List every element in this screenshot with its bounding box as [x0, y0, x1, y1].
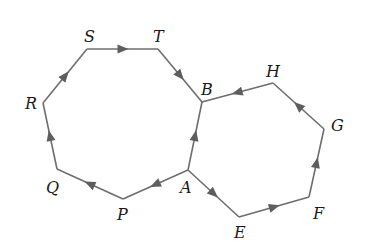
vertex-label-P: P [116, 205, 128, 224]
vertex-label-F: F [312, 204, 325, 223]
arrow-icon-PQ [83, 177, 97, 190]
vertex-label-H: H [265, 62, 281, 81]
arrow-icon-ST [118, 45, 129, 54]
vertex-label-E: E [233, 223, 246, 242]
labels-group: ABPQRSTHGFE [24, 27, 344, 242]
vertex-label-A: A [178, 178, 192, 197]
vertex-label-Q: Q [46, 178, 59, 197]
vertex-label-S: S [84, 27, 95, 46]
vertex-label-T: T [153, 27, 165, 46]
arrow-icon-HB [231, 87, 244, 99]
vertex-label-B: B [200, 80, 213, 99]
arrow-icon-QR [44, 129, 55, 142]
arrow-icon-EF [268, 201, 281, 213]
arrow-icon-AP [148, 178, 162, 191]
vertex-label-R: R [24, 94, 37, 113]
vertex-label-G: G [331, 116, 344, 135]
arrow-icon-AB [190, 129, 201, 142]
octagon-diagram: ABPQRSTHGFE [0, 0, 371, 251]
arrow-icon-FG [311, 156, 322, 169]
